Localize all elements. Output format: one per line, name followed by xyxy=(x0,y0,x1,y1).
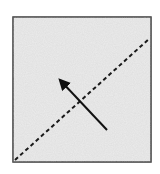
texture-overlay xyxy=(13,17,151,162)
diagram-canvas xyxy=(0,0,160,174)
